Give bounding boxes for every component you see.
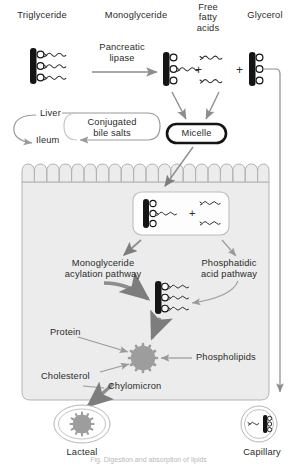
label-phospholipids: Phospholipids	[196, 352, 256, 362]
label-bile-salts: bile salts	[93, 128, 131, 138]
label-cholesterol: Cholesterol	[41, 371, 90, 381]
label-monoglyceride-pathway-line1: Monoglyceride	[72, 258, 134, 268]
plus-sign-glycerol: +	[236, 65, 243, 75]
label-chylomicron: Chylomicron	[108, 381, 161, 391]
monoglyceride-molecule	[163, 52, 199, 86]
lipid-digestion-diagram: Triglyceride Monoglyceride Free fatty ac…	[0, 0, 297, 466]
label-triglyceride: Triglyceride	[17, 10, 67, 20]
glycerol-molecule	[249, 52, 263, 86]
capillary-vessel	[241, 406, 277, 442]
label-phosphatidic-pathway-line2: acid pathway	[201, 269, 257, 279]
label-phosphatidic-pathway-line1: Phosphatidic	[201, 258, 256, 268]
monoglyceride-to-micelle-arrow	[172, 92, 186, 119]
label-conjugated: Conjugated	[87, 117, 136, 127]
label-liver: Liver	[40, 108, 61, 118]
triglyceride-molecule	[30, 48, 66, 84]
lacteal-vessel	[54, 405, 110, 443]
label-protein: Protein	[50, 327, 81, 337]
label-monoglyceride: Monoglyceride	[105, 10, 167, 20]
label-glycerol: Glycerol	[247, 10, 282, 20]
free-fatty-acids-molecule	[200, 56, 222, 83]
label-ileum: Ileum	[36, 135, 59, 145]
intracellular-lipid-box	[133, 192, 229, 235]
diagram-canvas	[0, 0, 297, 466]
label-micelle: Micelle	[182, 128, 212, 138]
label-free-fatty-acids: Free fatty acids	[197, 2, 219, 33]
label-pancreatic-lipase-line1: Pancreatic	[99, 42, 144, 52]
plus-sign-intracellular: +	[189, 208, 196, 218]
microvilli	[22, 164, 269, 182]
label-monoglyceride-pathway-line2: acylation pathway	[65, 269, 141, 279]
figure-caption: Fig. Digestion and absorption of lipids	[0, 456, 297, 466]
ffa-to-micelle-arrow	[206, 92, 219, 119]
plus-sign-ffa: +	[195, 65, 202, 75]
label-pancreatic-lipase-line2: lipase	[109, 53, 134, 63]
